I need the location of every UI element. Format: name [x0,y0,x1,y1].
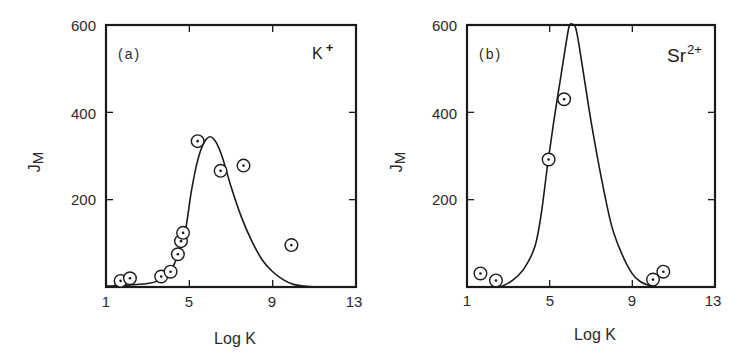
y-tick-label: 400 [432,105,457,122]
x-axis-title: Log K [574,326,616,343]
axis-ticks [106,25,356,287]
data-point [657,265,670,278]
x-tick-label: 13 [705,292,722,309]
y-axis-title-main: J [26,164,43,172]
plot-frame [106,25,356,287]
data-point [191,135,204,148]
ion-annotation: K+ [312,40,334,62]
ion-symbol: Sr [667,45,687,66]
x-tick-label: 5 [185,293,193,310]
x-tick-label: 13 [346,293,363,310]
data-point [164,265,177,278]
x-tick-label: 9 [268,293,276,310]
data-point [285,239,298,252]
y-tick-label: 400 [71,105,96,122]
data-points [474,93,669,287]
data-point [177,227,190,240]
y-axis-title-sub: M [29,152,46,165]
ion-charge: 2+ [687,42,702,57]
fit-curve [106,137,314,287]
x-tick-label: 1 [463,292,471,309]
svg-text:JM: JM [388,152,408,173]
y-axis-title: JM [26,152,46,173]
fit-curve [500,24,657,287]
panel-label: (a) [118,46,141,62]
x-tick-label: 9 [628,292,636,309]
y-tick-label: 200 [432,191,457,208]
x-tick-label: 1 [102,293,110,310]
y-axis-title: JM [388,152,408,173]
y-tick-label: 600 [71,17,96,34]
ion-charge: + [326,40,334,55]
y-tick-label: 200 [71,191,96,208]
data-points [114,135,297,287]
y-axis-title-sub: M [391,152,408,165]
y-axis-title-main: J [388,164,405,172]
data-point [558,93,571,106]
data-point [542,153,555,166]
ion-symbol: K [312,45,323,62]
data-point [214,165,227,178]
panel-label: (b) [479,46,502,62]
x-axis-title: Log K [214,330,256,347]
panel-b: 600 400 200 1 5 9 13 Log K JM (b) Sr2+ [388,17,721,343]
x-tick-label: 5 [546,292,554,309]
data-point [237,159,250,172]
y-tick-label: 600 [432,17,457,34]
panel-a: 600 400 200 1 5 9 13 Log K JM (a) K+ [26,17,362,347]
data-point [172,248,185,261]
figure: 600 400 200 1 5 9 13 Log K JM (a) K+ 600… [0,0,740,362]
svg-text:JM: JM [26,152,46,173]
data-point [124,272,137,285]
data-point [474,267,487,280]
ion-annotation: Sr2+ [667,42,702,66]
data-point [490,274,503,287]
